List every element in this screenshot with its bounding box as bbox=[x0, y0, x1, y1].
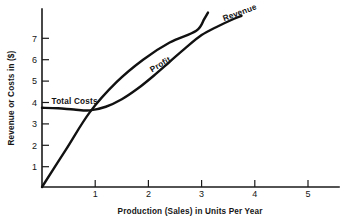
x-tick-labels: 1 2 3 4 5 bbox=[93, 189, 311, 199]
x-axis-title: Production (Sales) in Units Per Year bbox=[118, 207, 264, 216]
y-tick-label-5: 5 bbox=[32, 76, 37, 86]
x-tick-marks bbox=[95, 180, 308, 187]
chart-figure: 1 2 3 4 5 6 7 1 2 3 4 5 Production ( bbox=[0, 0, 359, 222]
x-tick-label-3: 3 bbox=[199, 189, 204, 199]
y-tick-marks bbox=[42, 38, 49, 166]
chart-plot-area: 1 2 3 4 5 6 7 1 2 3 4 5 Production ( bbox=[0, 0, 359, 222]
y-tick-label-3: 3 bbox=[32, 119, 37, 129]
x-tick-label-2: 2 bbox=[146, 189, 151, 199]
y-tick-label-1: 1 bbox=[32, 162, 37, 172]
y-tick-label-2: 2 bbox=[32, 141, 37, 151]
y-tick-label-7: 7 bbox=[32, 34, 37, 44]
x-tick-label-5: 5 bbox=[305, 189, 310, 199]
y-tick-labels: 1 2 3 4 5 6 7 bbox=[32, 34, 37, 172]
y-tick-label-4: 4 bbox=[32, 98, 37, 108]
revenue-label: Revenue bbox=[222, 2, 259, 23]
x-tick-label-1: 1 bbox=[93, 189, 98, 199]
x-tick-label-4: 4 bbox=[252, 189, 257, 199]
total-costs-label: Total Costs bbox=[52, 97, 98, 106]
y-tick-label-6: 6 bbox=[32, 55, 37, 65]
y-axis-title: Revenue or Costs in ($) bbox=[7, 50, 16, 145]
